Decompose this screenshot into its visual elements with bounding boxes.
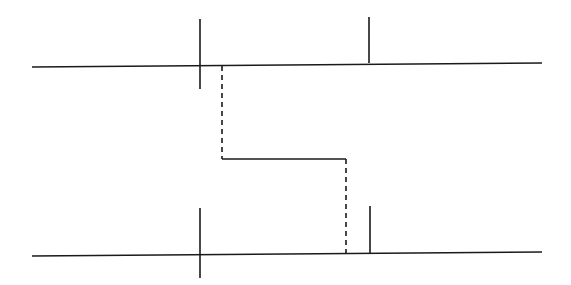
bottom-horizontal-line	[32, 252, 542, 256]
diagram-svg	[0, 0, 571, 285]
top-horizontal-line	[32, 63, 542, 67]
bottom-axis-group	[32, 206, 542, 278]
diagram-canvas	[0, 0, 571, 285]
top-axis-group	[32, 17, 542, 89]
connector-group	[222, 66, 346, 254]
